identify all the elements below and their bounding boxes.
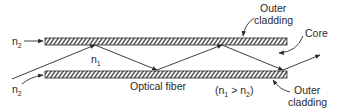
outer-cladding-bottom-label-line2: cladding	[288, 96, 327, 108]
outer-cladding-top-label-line1: Outer	[260, 2, 287, 14]
outer-cladding-top-arrow-icon	[243, 18, 254, 36]
bottom-cladding	[45, 71, 287, 78]
optical-fiber-diagram: n2 n2 n1 Outer cladding Core Optical fib…	[0, 0, 337, 110]
top-cladding	[45, 38, 287, 45]
refractive-index-condition: (n1 > n2)	[215, 84, 253, 98]
n2-bottom-arrow-icon	[22, 75, 43, 84]
n2-bottom-label: n2	[12, 83, 22, 97]
core-label: Core	[305, 27, 328, 39]
n1-label: n1	[91, 53, 101, 67]
optical-fiber-label: Optical fiber	[130, 80, 187, 92]
outer-cladding-top-label-line2: cladding	[254, 14, 293, 26]
outer-cladding-bottom-arrow-icon	[273, 80, 290, 92]
outer-cladding-bottom-label-line1: Outer	[294, 84, 321, 96]
n2-top-label: n2	[12, 35, 22, 49]
